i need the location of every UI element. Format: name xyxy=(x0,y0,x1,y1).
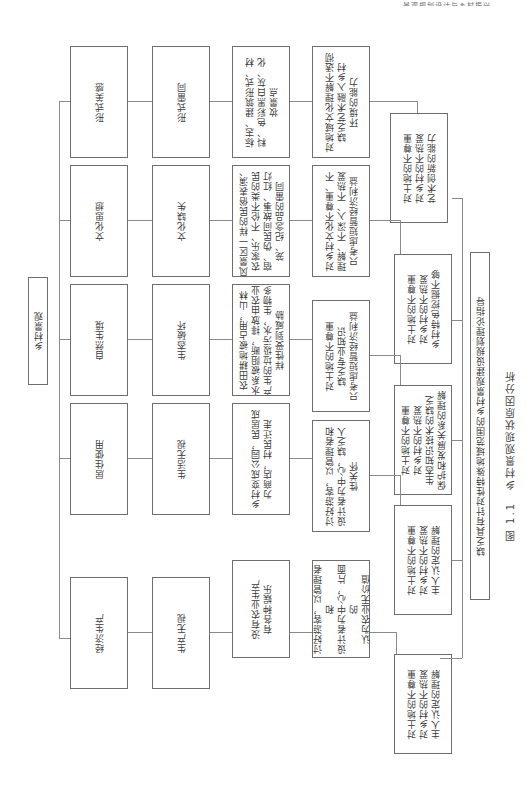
problem-node: 文化缺失 xyxy=(152,165,210,277)
category-node: 经济生产 xyxy=(70,577,128,689)
direct-cause-text: 对乡村文化不尊重、不 理解、不深入、不热爱 只考虑短暂经济利益 xyxy=(323,171,359,271)
problem-node: 形式雷同 xyxy=(152,46,210,158)
root-cause-text: 对土地的不尊重 对乡村的不热爱 乡村特色挖掘不够 xyxy=(405,269,441,349)
problem-node: 生活无视 xyxy=(152,403,210,515)
root-cause-node: 对土地的不尊重 对乡村的不热爱 主人认定的理解 xyxy=(394,505,452,615)
connector xyxy=(210,632,232,633)
trunk-line xyxy=(59,101,60,639)
connector xyxy=(210,220,232,221)
phenomenon-node: 标志、建筑形式、材 料、色彩黑白灰、化 妆景点 xyxy=(232,46,290,158)
figure-caption: 图 1.1 乡村景观现状原因分析 xyxy=(503,370,518,541)
connector xyxy=(400,355,401,385)
root-label: 乡村景观 xyxy=(32,311,44,351)
category-node: 居住使用 xyxy=(70,403,128,515)
bus-line xyxy=(462,198,463,658)
problem-label: 形式雷同 xyxy=(175,82,187,122)
root-cause-text: 对土地的不尊重 对乡村的不热爱 主人认定的理解 xyxy=(405,525,441,595)
connector xyxy=(128,101,152,102)
connector xyxy=(59,339,70,340)
connector xyxy=(290,339,312,340)
problem-label: 生产无视 xyxy=(175,613,187,653)
connector xyxy=(370,632,397,633)
category-node: 自然生境 xyxy=(70,284,128,396)
connector xyxy=(290,101,312,102)
direct-cause-text: 对地域文化理解不透彻 缺乏艺术融入乡村 环境的能力 xyxy=(323,52,359,152)
phenomenon-text: 乡村变成公园，民居成 为商店，村民迁走 xyxy=(249,409,273,509)
conclusion-node: 缺乏具有针对性特殊地域范围的乡村景观建设规划理论指导 xyxy=(470,252,490,600)
problem-label: 生活无视 xyxy=(175,439,187,479)
category-label: 居住使用 xyxy=(93,439,105,479)
connector xyxy=(128,632,152,633)
phenomenon-node: 乡村变成公园，民居成 为商店，村民迁走 xyxy=(232,403,290,515)
category-label: 文化思想 xyxy=(93,201,105,241)
phenomenon-text: 没有农业生产 有各种娱乐 xyxy=(249,579,273,639)
direct-cause-text: 对土地的不尊重 缺乏专业知识 只考虑短暂经济利益 xyxy=(323,311,359,401)
connector xyxy=(370,220,400,221)
category-node: 形式美感 xyxy=(70,46,128,158)
connector xyxy=(400,475,401,505)
category-label: 形式美感 xyxy=(93,82,105,122)
connector xyxy=(290,220,312,221)
problem-label: 文化缺失 xyxy=(175,201,187,241)
connector xyxy=(417,101,418,113)
connector xyxy=(128,339,152,340)
connector xyxy=(370,101,417,102)
root-cause-node: 对土地的不尊重 对乡村的不热爱 主人认定的理解 xyxy=(394,654,452,754)
connector xyxy=(440,658,462,659)
connector xyxy=(128,220,152,221)
phenomenon-node: 农田耕地被占用，山林 水系被阻断，排放由农业 产生的垃圾污水，生物多 样性受到威… xyxy=(232,284,290,396)
phenomenon-node: 没有农业生产 有各种娱乐 xyxy=(232,560,290,658)
connector xyxy=(452,320,462,321)
connector xyxy=(210,339,232,340)
connector xyxy=(290,458,312,459)
direct-cause-node: 讨好游客，以管理者和 设计者为中心，片面的 认为农业无价值 xyxy=(312,560,370,658)
connector xyxy=(59,458,70,459)
root-node: 乡村景观 xyxy=(28,277,48,385)
direct-cause-text: 讨好游客，以管理者和 设计者为中心，缺乏人 性关怀 xyxy=(323,426,359,526)
running-header: 景观规划设计与乡村振兴 xyxy=(403,0,523,6)
problem-label: 生态破坏 xyxy=(175,320,187,360)
connector xyxy=(290,632,312,633)
direct-cause-node: 讨好游客，以管理者和 设计者为中心，缺乏人 性关怀 xyxy=(312,420,370,532)
connector xyxy=(452,440,462,441)
connector xyxy=(370,355,400,356)
connector xyxy=(452,198,462,199)
root-cause-text: 对土地的不尊重 对乡村的不热爱 艺术创新的能力 xyxy=(401,133,437,203)
direct-cause-node: 对土地的不尊重 缺乏专业知识 只考虑短暂经济利益 xyxy=(312,300,370,412)
connector xyxy=(128,458,152,459)
problem-node: 生产无视 xyxy=(152,577,210,689)
connector xyxy=(210,458,232,459)
direct-cause-text: 讨好游客，以管理者和 设计者为中心，片面的 认为农业无价值 xyxy=(311,561,371,657)
category-label: 经济生产 xyxy=(93,613,105,653)
phenomenon-text: 标志、建筑形式、材 料、色彩黑白灰、化 妆景点 xyxy=(243,57,279,147)
direct-cause-node: 对地域文化理解不透彻 缺乏艺术融入乡村 环境的能力 xyxy=(312,46,370,158)
connector xyxy=(59,220,70,221)
root-cause-node: 对土地的不尊重 对乡村的不热爱 艺术创新的能力 xyxy=(390,113,448,223)
problem-node: 生态破坏 xyxy=(152,284,210,396)
connector xyxy=(59,101,70,102)
root-cause-node: 对土地的不尊重 对乡村的不热爱 生态知识技术的缺乏 保护和发展关系的理解 xyxy=(394,385,452,495)
connector xyxy=(452,560,462,561)
direct-cause-node: 对乡村文化不尊重、不 理解、不深入、不热爱 只考虑短暂经济利益 xyxy=(312,165,370,277)
root-cause-text: 对土地的不尊重 对乡村的不热爱 主人认定的理解 xyxy=(405,669,441,739)
category-node: 文化思想 xyxy=(70,165,128,277)
connector xyxy=(210,101,232,102)
category-label: 自然生境 xyxy=(93,320,105,360)
phenomenon-text: 风景区一样的民俗表演、 农家乐、不伦不类的民 宿、伪民间故事、红灯 笼、纪念品的… xyxy=(237,166,285,276)
connector xyxy=(370,475,400,476)
connector xyxy=(396,632,397,654)
conclusion-text: 缺乏具有针对性特殊地域范围的乡村景观建设规划理论指导 xyxy=(474,296,486,556)
phenomenon-node: 风景区一样的民俗表演、 农家乐、不伦不类的民 宿、伪民间故事、红灯 笼、纪念品的… xyxy=(232,165,290,277)
connector xyxy=(400,220,401,254)
root-cause-node: 对土地的不尊重 对乡村的不热爱 乡村特色挖掘不够 xyxy=(394,254,452,364)
root-cause-text: 对土地的不尊重 对乡村的不热爱 生态知识技术的缺乏 保护和发展关系的理解 xyxy=(399,390,447,490)
phenomenon-text: 农田耕地被占用，山林 水系被阻断，排放由农业 产生的垃圾污水，生物多 样性受到威… xyxy=(237,285,285,395)
connector xyxy=(59,638,70,639)
